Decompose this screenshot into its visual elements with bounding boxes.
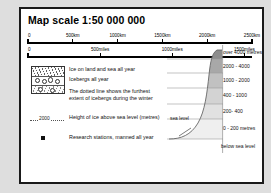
legend-label-icebergs: Icebergs all year bbox=[69, 76, 168, 83]
ice-hatch-icon bbox=[32, 85, 64, 94]
band-label-200-400: 200- 400 bbox=[223, 108, 243, 114]
scale-miles-tick-label: 0 bbox=[28, 47, 31, 52]
iceberg-icon bbox=[42, 79, 47, 84]
band-label-400-1000: 400 - 1000 bbox=[223, 92, 247, 98]
scale-km-tick-label: 1000km bbox=[109, 33, 125, 38]
band-label-below-sea-level: below sea level bbox=[221, 143, 255, 149]
height-contour-icon: 2000 bbox=[30, 116, 64, 124]
legend-label-dotted-line: The dotted line shows the furthest exten… bbox=[69, 88, 166, 101]
band-label-1000-2000: 1000 - 2000 bbox=[223, 77, 250, 83]
iceberg-icon bbox=[35, 78, 40, 83]
scale-km-tick bbox=[27, 39, 28, 44]
scale-km-tick bbox=[117, 39, 118, 44]
legend-label-stations: Research stations, manned all year bbox=[69, 134, 164, 141]
scale-miles-tick bbox=[100, 53, 101, 58]
legend-label-height: Height of ice above sea level (metres) bbox=[69, 114, 164, 121]
scale-km-tick-label: 500km bbox=[66, 33, 80, 38]
page-title: Map scale 1:50 000 000 bbox=[28, 14, 145, 26]
band-label-2000-4000: 2000 - 4000 bbox=[223, 63, 250, 69]
scale-km-tick bbox=[72, 39, 73, 44]
contour-value-label: 2000 bbox=[38, 116, 51, 121]
map-key-panel: Map scale 1:50 000 000 0500km1000km1500k… bbox=[0, 0, 271, 193]
key-frame: Map scale 1:50 000 000 0500km1000km1500k… bbox=[19, 7, 264, 184]
band-label-over-4000: over 4000 metres bbox=[223, 49, 262, 55]
divider bbox=[32, 76, 64, 77]
legend-label-ice: Ice on land and sea all year bbox=[69, 66, 168, 73]
ice-pattern-box-icon bbox=[31, 66, 65, 94]
research-station-square-icon bbox=[41, 136, 45, 140]
scale-km-tick bbox=[162, 39, 163, 44]
band-label-0-200: 0 - 200 metres bbox=[223, 125, 255, 131]
iceberg-icon bbox=[55, 79, 60, 84]
elevation-profile: sea level over 4000 metres 2000 - 4000 1… bbox=[167, 31, 259, 163]
iceberg-icon bbox=[48, 77, 53, 82]
scale-miles-tick-label: 500miles bbox=[91, 47, 109, 52]
sea-level-label: sea level bbox=[170, 116, 189, 121]
scale-miles-tick bbox=[27, 53, 28, 58]
scale-km-tick-label: 0 bbox=[28, 33, 31, 38]
ice-hatch-icon bbox=[32, 67, 64, 76]
